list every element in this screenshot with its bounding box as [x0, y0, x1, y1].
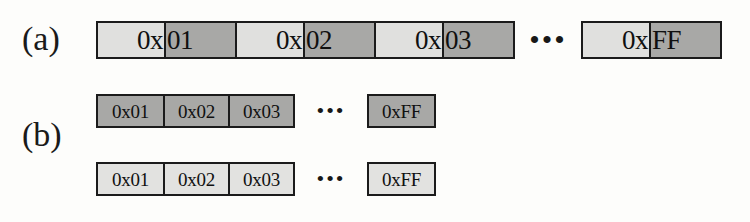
ellipsis-icon: ••• [295, 94, 367, 128]
byte-cell-b2-3: 0x03 [228, 164, 293, 194]
byte-cell-suffix: FF [649, 23, 720, 57]
byte-row-b2: 0x01 0x02 0x03 ••• 0xFF [96, 162, 436, 196]
byte-cell-b2-tail: 0xFF [369, 164, 434, 194]
byte-row-a: 0x 01 0x 02 0x 03 ••• 0x FF [96, 21, 722, 59]
byte-cell-b1-1: 0x01 [98, 96, 163, 126]
byte-cell-a-1: 0x 01 [96, 21, 235, 59]
byte-cell-a-2: 0x 02 [235, 21, 374, 59]
byte-cell-b1-3: 0x03 [228, 96, 293, 126]
byte-cell-a-3: 0x 03 [374, 21, 515, 59]
byte-cell-prefix: 0x [583, 23, 649, 57]
byte-cell-group: 0x01 0x02 0x03 [96, 162, 295, 196]
byte-cell-group-tail: 0xFF [367, 162, 436, 196]
ellipsis-icon: ••• [515, 21, 581, 59]
byte-cell-b2-1: 0x01 [98, 164, 163, 194]
byte-cell-suffix: 01 [164, 23, 235, 57]
figure-canvas: (a) 0x 01 0x 02 0x 03 ••• 0x FF (b) 0x01… [0, 0, 750, 222]
byte-cell-group: 0x01 0x02 0x03 [96, 94, 295, 128]
byte-cell-b2-2: 0x02 [163, 164, 228, 194]
byte-row-b1: 0x01 0x02 0x03 ••• 0xFF [96, 94, 436, 128]
byte-cell-suffix: 02 [303, 23, 374, 57]
byte-cell-prefix: 0x [237, 23, 303, 57]
byte-cell-a-tail: 0x FF [581, 21, 722, 59]
byte-cell-group-tail: 0xFF [367, 94, 436, 128]
ellipsis-icon: ••• [295, 162, 367, 196]
byte-cell-suffix: 03 [442, 23, 513, 57]
byte-cell-b1-2: 0x02 [163, 96, 228, 126]
byte-cell-b1-tail: 0xFF [369, 96, 434, 126]
byte-cell-prefix: 0x [376, 23, 442, 57]
panel-label-b: (b) [22, 118, 62, 152]
panel-label-a: (a) [22, 22, 60, 56]
byte-cell-prefix: 0x [98, 23, 164, 57]
